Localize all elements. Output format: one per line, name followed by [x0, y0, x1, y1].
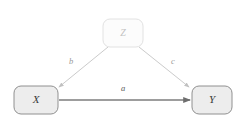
edge-c-label: c [171, 56, 175, 66]
causal-diagram: b c a Z X Y [0, 0, 246, 131]
edge-b-label: b [69, 56, 73, 66]
node-y[interactable]: Y [192, 86, 232, 114]
edge-c-line [139, 47, 189, 87]
node-z[interactable]: Z [103, 19, 143, 47]
edge-a[interactable]: a [59, 83, 190, 100]
edge-b[interactable]: b [59, 47, 108, 87]
diagram-canvas: b c a Z X Y [0, 0, 246, 131]
node-x-label: X [32, 93, 41, 105]
node-z-label: Z [120, 27, 126, 38]
node-x[interactable]: X [14, 86, 58, 114]
edge-a-label: a [121, 83, 125, 93]
edge-b-line [59, 47, 108, 87]
edge-c[interactable]: c [139, 47, 189, 87]
